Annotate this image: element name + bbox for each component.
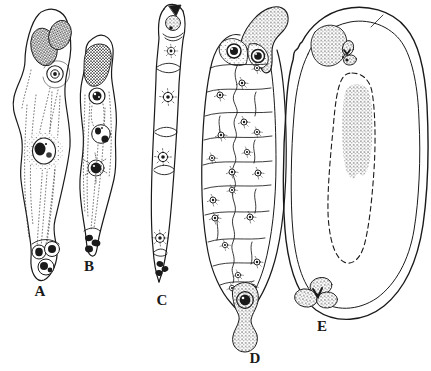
panel-b-label: B [84, 258, 94, 274]
d-cell-walls [203, 64, 272, 285]
e-antipodal-mass [293, 276, 338, 309]
panel-a-label: A [35, 283, 46, 299]
panel-c-label: C [157, 292, 168, 308]
d-cell-nuclei [207, 63, 264, 293]
b-middle-nucleus [92, 125, 111, 144]
panel-d-label: D [250, 350, 261, 366]
figure-illustration: A B [0, 0, 431, 371]
d-basal-bulb [232, 283, 258, 353]
c-basal-cells [155, 260, 169, 276]
b-ring-nucleus [89, 88, 105, 104]
panel-a: A [13, 9, 75, 299]
panel-e-label: E [317, 318, 327, 334]
panel-d: D [202, 7, 288, 366]
a-central-nucleus [25, 132, 63, 170]
e-central-body [342, 84, 372, 178]
c-head [163, 5, 183, 41]
illustration-plate: A B [0, 0, 431, 371]
e-egg-apparatus [311, 25, 357, 66]
panel-b: B [80, 35, 117, 274]
d-outer-wall [202, 35, 286, 318]
panel-c: C [151, 4, 185, 308]
panel-e: E [283, 7, 428, 334]
